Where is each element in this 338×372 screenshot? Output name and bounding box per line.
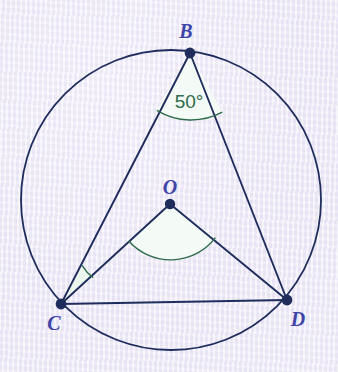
point-C — [56, 299, 67, 310]
point-D — [282, 295, 293, 306]
geometry-figure: B O C D 50° — [0, 0, 338, 372]
angle-label-50-degrees: 50° — [175, 91, 204, 112]
point-B — [185, 48, 196, 59]
segment-CD — [61, 300, 287, 304]
geometry-canvas: B O C D 50° — [0, 0, 338, 372]
point-label-O: O — [163, 176, 177, 198]
point-label-D: D — [290, 308, 305, 330]
point-O — [165, 199, 175, 209]
point-label-B: B — [178, 20, 192, 42]
point-label-C: C — [47, 312, 61, 334]
